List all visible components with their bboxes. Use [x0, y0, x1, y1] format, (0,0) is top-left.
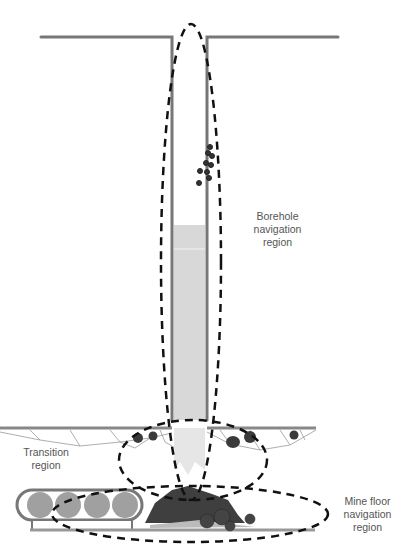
label-line: navigation [330, 508, 405, 521]
label-line: Mine floor [330, 495, 405, 508]
borehole-region-label: Borehole navigation region [240, 210, 315, 249]
label-line: Transition [6, 446, 86, 459]
borehole-mining-diagram [0, 0, 409, 560]
cavity-plume [174, 428, 205, 475]
label-line: region [240, 236, 315, 249]
label-line: navigation [240, 223, 315, 236]
transition-region-label: Transition region [6, 446, 86, 472]
label-line: region [330, 521, 405, 534]
mine-floor-region-label: Mine floor navigation region [330, 495, 405, 534]
label-line: Borehole [240, 210, 315, 223]
label-line: region [6, 459, 86, 472]
borehole-fill [174, 225, 205, 420]
roof-rocks [133, 431, 299, 449]
